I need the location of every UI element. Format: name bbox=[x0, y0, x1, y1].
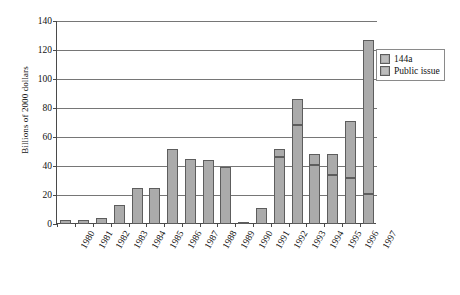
bar-group[interactable] bbox=[274, 21, 285, 224]
x-tick-label: 1981 bbox=[96, 229, 114, 250]
bar-group[interactable] bbox=[185, 21, 196, 224]
bar-segment-public-issue[interactable] bbox=[185, 159, 196, 224]
bar-group[interactable] bbox=[345, 21, 356, 224]
x-tick-label: 1988 bbox=[221, 229, 239, 250]
bar-group[interactable] bbox=[78, 21, 89, 224]
bar-group[interactable] bbox=[132, 21, 143, 224]
bar-segment-public-issue[interactable] bbox=[220, 167, 231, 224]
x-tick-mark bbox=[129, 223, 130, 227]
x-tick-mark bbox=[200, 223, 201, 227]
y-tick-label: 40 bbox=[43, 161, 53, 171]
bar-group[interactable] bbox=[292, 21, 303, 224]
bar-group[interactable] bbox=[363, 21, 374, 224]
x-tick-label: 1995 bbox=[345, 229, 363, 250]
y-tick-label: 120 bbox=[38, 45, 52, 55]
x-tick-mark bbox=[342, 223, 343, 227]
bar-group[interactable] bbox=[327, 21, 338, 224]
bar-group[interactable] bbox=[220, 21, 231, 224]
bar-group[interactable] bbox=[60, 21, 71, 224]
bar-segment-public-issue[interactable] bbox=[292, 125, 303, 224]
x-tick-mark bbox=[306, 223, 307, 227]
bar-segment-public-issue[interactable] bbox=[203, 160, 214, 224]
legend-swatch-public-issue bbox=[380, 66, 390, 76]
bar-segment-public-issue[interactable] bbox=[132, 188, 143, 224]
bar-segment-public-issue[interactable] bbox=[327, 175, 338, 224]
bar-segment-public-issue[interactable] bbox=[167, 149, 178, 224]
bar-segment-144a[interactable] bbox=[309, 154, 320, 164]
bar-segment-public-issue[interactable] bbox=[309, 165, 320, 224]
x-tick-mark bbox=[164, 223, 165, 227]
bar-segment-public-issue[interactable] bbox=[345, 178, 356, 224]
x-tick-mark bbox=[253, 223, 254, 227]
legend-item-144a[interactable]: 144a bbox=[380, 53, 440, 65]
bar-group[interactable] bbox=[309, 21, 320, 224]
x-tick-label: 1997 bbox=[381, 229, 399, 250]
legend-label-public-issue: Public issue bbox=[394, 66, 440, 77]
x-tick-mark bbox=[93, 223, 94, 227]
x-tick-mark bbox=[235, 223, 236, 227]
bar-segment-public-issue[interactable] bbox=[78, 220, 89, 224]
x-tick-mark bbox=[271, 223, 272, 227]
bar-segment-public-issue[interactable] bbox=[149, 188, 160, 224]
bars-layer bbox=[57, 21, 377, 224]
x-tick-label: 1983 bbox=[132, 229, 150, 250]
x-tick-label: 1991 bbox=[274, 229, 292, 250]
chart-container: Billions of 2000 dollars 020406080100120… bbox=[0, 0, 460, 295]
x-tick-mark bbox=[360, 223, 361, 227]
y-axis-title: Billions of 2000 dollars bbox=[20, 25, 30, 195]
bar-segment-public-issue[interactable] bbox=[256, 208, 267, 224]
bar-segment-public-issue[interactable] bbox=[238, 222, 249, 224]
bar-group[interactable] bbox=[256, 21, 267, 224]
bar-segment-public-issue[interactable] bbox=[274, 157, 285, 224]
x-tick-mark bbox=[75, 223, 76, 227]
x-tick-label: 1980 bbox=[78, 229, 96, 250]
x-tick-mark bbox=[217, 223, 218, 227]
x-tick-label: 1994 bbox=[327, 229, 345, 250]
x-tick-label: 1986 bbox=[185, 229, 203, 250]
bar-group[interactable] bbox=[238, 21, 249, 224]
x-tick-mark bbox=[57, 223, 58, 227]
legend-swatch-144a bbox=[380, 54, 390, 64]
x-tick-label: 1992 bbox=[292, 229, 310, 250]
bar-segment-144a[interactable] bbox=[292, 99, 303, 125]
x-tick-mark bbox=[289, 223, 290, 227]
x-tick-mark bbox=[324, 223, 325, 227]
y-tick-label: 20 bbox=[43, 190, 53, 200]
x-tick-label: 1982 bbox=[114, 229, 132, 250]
bar-segment-public-issue[interactable] bbox=[363, 194, 374, 224]
y-tick-label: 80 bbox=[43, 103, 53, 113]
bar-segment-public-issue[interactable] bbox=[96, 218, 107, 224]
bar-group[interactable] bbox=[114, 21, 125, 224]
bar-group[interactable] bbox=[203, 21, 214, 224]
legend-item-public-issue[interactable]: Public issue bbox=[380, 65, 440, 77]
x-tick-label: 1984 bbox=[150, 229, 168, 250]
legend-label-144a: 144a bbox=[394, 54, 412, 65]
bar-segment-144a[interactable] bbox=[327, 154, 338, 174]
x-tick-label: 1993 bbox=[310, 229, 328, 250]
x-tick-mark bbox=[146, 223, 147, 227]
x-tick-mark bbox=[111, 223, 112, 227]
bar-segment-144a[interactable] bbox=[363, 40, 374, 194]
y-tick-label: 60 bbox=[43, 132, 53, 142]
x-tick-mark bbox=[182, 223, 183, 227]
y-tick-label: 140 bbox=[38, 16, 52, 26]
chart-legend: 144a Public issue bbox=[376, 49, 445, 81]
x-tick-label: 1989 bbox=[238, 229, 256, 250]
plot-area: 020406080100120140 bbox=[56, 21, 376, 224]
bar-group[interactable] bbox=[96, 21, 107, 224]
x-tick-label: 1987 bbox=[203, 229, 221, 250]
bar-segment-public-issue[interactable] bbox=[114, 205, 125, 224]
bar-segment-144a[interactable] bbox=[274, 149, 285, 158]
bar-group[interactable] bbox=[149, 21, 160, 224]
y-tick-label: 0 bbox=[47, 219, 52, 229]
bar-group[interactable] bbox=[167, 21, 178, 224]
x-tick-label: 1990 bbox=[256, 229, 274, 250]
x-tick-label: 1985 bbox=[167, 229, 185, 250]
bar-segment-public-issue[interactable] bbox=[60, 220, 71, 224]
x-tick-label: 1996 bbox=[363, 229, 381, 250]
bar-segment-144a[interactable] bbox=[345, 121, 356, 178]
y-tick-label: 100 bbox=[38, 74, 52, 84]
